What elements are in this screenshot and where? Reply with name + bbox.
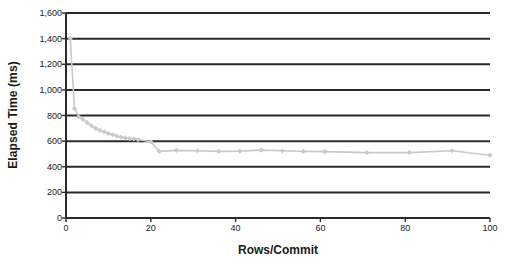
chart-plot <box>0 0 507 270</box>
x-tick-label: 40 <box>231 223 241 233</box>
x-axis-title: Rows/Commit <box>66 243 490 257</box>
x-tick-label: 60 <box>315 223 325 233</box>
chart-container: 02004006008001,0001,2001,4001,600 Elapse… <box>0 0 507 270</box>
x-tick-label: 0 <box>63 223 68 233</box>
gridlines <box>66 13 490 192</box>
data-markers-series-0 <box>68 36 493 158</box>
x-tick-label: 80 <box>400 223 410 233</box>
x-tick-label: 20 <box>146 223 156 233</box>
x-tick-label: 100 <box>482 223 497 233</box>
